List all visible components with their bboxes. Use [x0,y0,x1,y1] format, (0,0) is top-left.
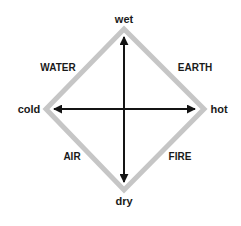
label-hot: hot [210,103,227,115]
label-fire: FIRE [169,151,192,162]
label-cold: cold [18,103,41,115]
label-dry: dry [115,195,133,207]
elements-qualities-diagram: wet dry cold hot WATER EARTH AIR FIRE [0,0,241,226]
label-earth: EARTH [178,62,212,73]
label-wet: wet [114,13,134,25]
label-water: WATER [40,62,76,73]
label-air: AIR [63,151,81,162]
